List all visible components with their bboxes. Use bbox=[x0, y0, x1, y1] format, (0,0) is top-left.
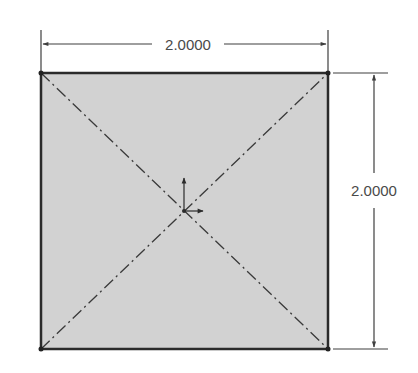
dimension-vertical[interactable]: 2.0000 bbox=[333, 73, 397, 349]
vertex-bottom-right[interactable] bbox=[326, 347, 331, 352]
vertex-top-right[interactable] bbox=[326, 71, 331, 76]
horizontal-dimension-label[interactable]: 2.0000 bbox=[165, 36, 211, 53]
vertical-dimension-label[interactable]: 2.0000 bbox=[351, 182, 397, 199]
dimension-horizontal[interactable]: 2.0000 bbox=[41, 30, 328, 71]
vertex-bottom-left[interactable] bbox=[39, 347, 44, 352]
sketch-canvas[interactable]: 2.0000 2.0000 bbox=[0, 0, 418, 373]
vertex-top-left[interactable] bbox=[39, 71, 44, 76]
